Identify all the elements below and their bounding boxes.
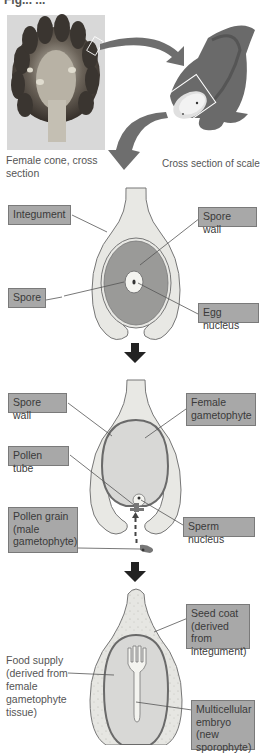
step-arrow-2	[124, 562, 146, 582]
seed-stage3	[68, 589, 192, 745]
label-embryo: Multicellular embryo (new sporophyte)	[191, 700, 255, 750]
scale-cross-section	[160, 26, 255, 131]
ovule-stage2	[68, 380, 186, 553]
label-female-gametophyte: Female gametophyte	[186, 393, 256, 426]
cone-caption: Female cone, cross section	[6, 154, 110, 180]
arrow-to-scale	[100, 38, 184, 66]
label-spore-wall-2: Spore wall	[8, 393, 67, 413]
label-sperm-nucleus: Sperm nucleus	[183, 517, 255, 537]
label-egg-nucleus: Egg nucleus	[198, 303, 259, 323]
label-pollen-tube: Pollen tube	[8, 446, 69, 466]
label-pollen-grain: Pollen grain (male gametophyte)	[8, 507, 78, 553]
step-arrow-1	[124, 343, 146, 363]
arrow-to-ovule	[108, 112, 168, 170]
label-spore-wall-1: Spore wall	[198, 207, 257, 227]
label-seed-coat: Seed coat (derived from integument)	[186, 604, 250, 649]
label-spore: Spore	[8, 288, 46, 308]
label-integument: Integument	[8, 205, 71, 225]
scale-caption: Cross section of scale	[162, 157, 267, 170]
label-food-supply: Food supply (derived from female gametop…	[6, 654, 70, 719]
female-cone-photo	[7, 14, 105, 150]
